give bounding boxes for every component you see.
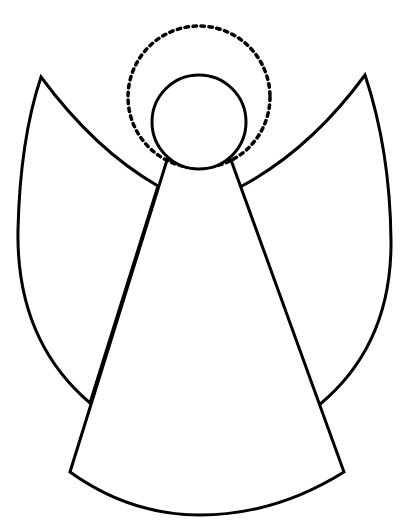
head: [152, 75, 246, 169]
angel-drawing: [0, 0, 403, 526]
